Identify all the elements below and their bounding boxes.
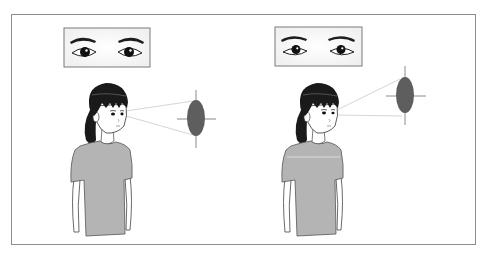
target-icon: [177, 90, 216, 148]
left-pupil-icon: [80, 47, 90, 57]
right-pupil-icon: [337, 45, 346, 54]
right-panel: [275, 27, 426, 236]
girl-figure-right: [282, 83, 343, 236]
eyes-inset-forward: [64, 28, 150, 67]
left-pupil-icon: [292, 45, 301, 54]
sight-line-lower: [337, 115, 402, 116]
right-pupil-icon: [124, 47, 134, 57]
girl-figure-left: [71, 83, 132, 236]
sight-line-upper: [337, 79, 400, 110]
sight-line-upper: [126, 101, 193, 111]
gaze-diagram: [0, 0, 486, 254]
left-panel: [64, 28, 216, 236]
eyes-inset-upward: [275, 27, 362, 66]
